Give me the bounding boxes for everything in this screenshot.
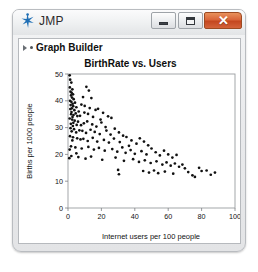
data-point — [86, 140, 89, 143]
data-point — [181, 163, 184, 166]
x-axis-tick-label: 100 — [229, 212, 241, 221]
data-point — [71, 139, 74, 142]
data-point — [68, 74, 71, 77]
page-background — [0, 258, 258, 272]
x-axis-tick-label: 40 — [131, 212, 139, 221]
report-header-label: Graph Builder — [36, 43, 103, 53]
data-point — [187, 171, 190, 174]
y-axis-label: Births per 1000 people — [25, 103, 34, 178]
data-point — [105, 129, 108, 132]
close-button[interactable]: ✕ — [204, 12, 242, 29]
data-point — [171, 156, 174, 159]
data-point — [100, 121, 103, 124]
data-point — [132, 158, 135, 161]
data-point — [142, 170, 145, 173]
plot-frame — [68, 74, 235, 208]
data-point — [85, 86, 88, 89]
data-point — [118, 141, 121, 144]
data-point — [79, 138, 82, 141]
data-point — [72, 121, 75, 124]
y-axis-tick-label: 0 — [59, 204, 63, 213]
data-point — [90, 155, 93, 158]
data-point — [113, 137, 116, 140]
data-point — [118, 173, 121, 176]
data-point — [161, 163, 164, 166]
data-point — [154, 151, 157, 154]
data-point — [121, 146, 124, 149]
data-point — [178, 165, 181, 168]
data-point — [102, 112, 105, 115]
data-point — [209, 173, 212, 176]
data-point — [80, 124, 83, 127]
graph-builder-report-panel: Graph Builder BirthRate vs. Users 010203… — [18, 38, 241, 244]
data-point — [69, 104, 72, 107]
data-point — [145, 153, 148, 156]
data-point — [73, 109, 76, 112]
data-point — [69, 123, 72, 126]
data-point — [104, 126, 107, 129]
data-point — [94, 109, 97, 112]
data-point — [92, 116, 95, 119]
data-point — [164, 170, 167, 173]
data-point — [113, 127, 116, 130]
data-point — [74, 112, 77, 115]
data-point — [83, 105, 86, 108]
data-point — [70, 145, 73, 148]
data-point — [184, 167, 187, 170]
data-point — [91, 136, 94, 139]
disclosure-triangle-icon[interactable] — [23, 45, 27, 51]
data-point — [133, 153, 136, 156]
data-point — [114, 156, 117, 159]
data-point — [138, 137, 141, 140]
maximize-button[interactable] — [178, 12, 203, 29]
data-point — [198, 166, 201, 169]
data-point — [125, 136, 128, 139]
data-point — [169, 164, 172, 167]
data-point — [69, 127, 72, 130]
data-point — [72, 136, 75, 139]
data-point — [73, 128, 76, 131]
report-header[interactable]: Graph Builder — [19, 39, 240, 56]
data-point — [117, 169, 120, 172]
window-titlebar[interactable]: JMP ✕ — [13, 10, 245, 35]
scatter-chart: BirthRate vs. Users 01020304050 02040608… — [19, 56, 241, 244]
data-point — [75, 106, 78, 109]
data-point — [74, 146, 77, 149]
data-point — [155, 160, 158, 163]
data-point — [83, 122, 86, 125]
minimize-button[interactable] — [151, 12, 176, 29]
data-point — [140, 150, 143, 153]
data-point — [75, 124, 78, 127]
data-point — [80, 147, 83, 150]
data-point — [68, 157, 71, 160]
data-point — [148, 171, 151, 174]
data-point — [82, 96, 85, 99]
data-point — [68, 86, 71, 89]
bullet-icon — [30, 46, 33, 49]
data-point — [71, 88, 74, 91]
data-point — [101, 158, 104, 161]
data-point — [69, 108, 72, 111]
x-axis-tick-label: 20 — [97, 212, 105, 221]
data-point — [84, 157, 87, 160]
data-point — [130, 139, 133, 142]
data-point — [87, 146, 90, 149]
data-point — [80, 103, 83, 106]
data-point — [138, 161, 141, 164]
y-axis-tick-label: 10 — [55, 177, 63, 186]
data-point — [95, 125, 98, 128]
window-controls: ✕ — [149, 12, 242, 30]
data-point — [88, 89, 91, 92]
data-point — [70, 130, 73, 133]
data-point — [194, 176, 197, 179]
data-point — [108, 141, 111, 144]
data-point — [147, 144, 150, 147]
y-axis-tick-label: 30 — [55, 123, 63, 132]
data-point — [93, 131, 96, 134]
jmp-application-window: JMP ✕ Graph Builder BirthRate vs. Users — [12, 9, 246, 252]
data-point — [70, 155, 73, 158]
close-icon: ✕ — [218, 14, 229, 27]
data-point — [163, 149, 166, 152]
data-point — [86, 120, 89, 123]
data-point — [159, 154, 162, 157]
